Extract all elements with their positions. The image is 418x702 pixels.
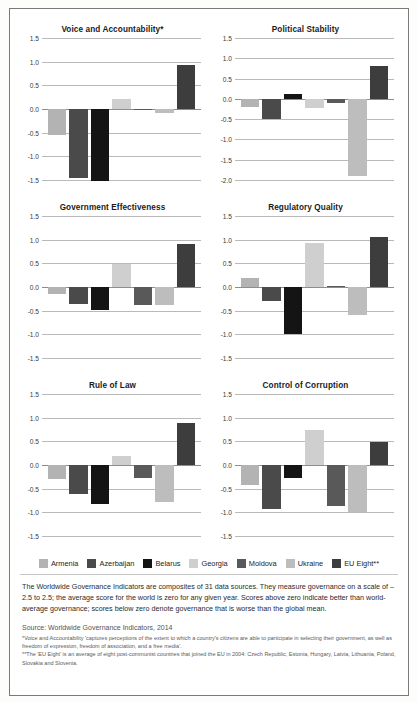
footnote-voice-accountability: *Voice and Accountability 'captures perc… <box>22 634 396 651</box>
bar-slot <box>241 216 259 358</box>
bar-slot <box>177 394 195 536</box>
bar-slot <box>48 216 66 358</box>
bar <box>262 99 280 119</box>
legend-item[interactable]: Georgia <box>189 559 227 568</box>
bar <box>241 99 259 107</box>
bar-series <box>46 38 197 180</box>
plot-area: 1.51.00.50.0-0.5-1.0-1.5 <box>235 394 394 536</box>
y-axis-tick-label: 0.0 <box>223 95 232 102</box>
y-axis-tick-label: -1.0 <box>221 136 232 143</box>
y-axis-tick-label: -1.0 <box>221 509 232 516</box>
y-axis-tick-label: 1.0 <box>223 236 232 243</box>
bar-slot <box>177 38 195 180</box>
bar-slot <box>262 38 280 180</box>
y-axis-tick-label: -1.0 <box>28 331 39 338</box>
legend-label: Ukraine <box>298 559 323 568</box>
bar <box>327 99 345 103</box>
gridline: -1.5 <box>42 358 201 359</box>
y-axis-tick-label: 1.0 <box>223 55 232 62</box>
bar-slot <box>112 216 130 358</box>
y-axis-tick-label: 1.0 <box>30 414 39 421</box>
bar-slot <box>69 216 87 358</box>
bar <box>327 465 345 506</box>
plot-area: 1.51.00.50.0-0.5-1.0-1.5 <box>235 216 394 358</box>
bar <box>348 99 366 176</box>
bar-series <box>239 216 390 358</box>
legend-swatch-icon <box>87 559 96 568</box>
bar <box>348 465 366 512</box>
legend-item[interactable]: Azerbaijan <box>87 559 134 568</box>
y-axis-tick-label: 0.5 <box>223 260 232 267</box>
legend-label: Azerbaijan <box>99 559 134 568</box>
bar <box>69 109 87 178</box>
y-axis-tick-label: -1.0 <box>28 509 39 516</box>
y-axis-tick-label: 0.0 <box>30 106 39 113</box>
y-axis-tick-label: -0.5 <box>28 307 39 314</box>
bar-slot <box>155 216 173 358</box>
bar-slot <box>155 38 173 180</box>
bar <box>327 286 345 287</box>
y-axis-tick-label: 0.0 <box>30 284 39 291</box>
chart-grid: Voice and Accountability*1.51.00.50.0-0.… <box>20 15 398 549</box>
bar-slot <box>284 216 302 358</box>
legend-swatch-icon <box>189 559 198 568</box>
legend-label: EU Eight** <box>344 559 379 568</box>
legend-item[interactable]: Moldova <box>237 559 277 568</box>
bar <box>48 287 66 294</box>
plot-area: 1.51.00.50.0-0.5-1.0-1.5-2.0 <box>235 38 394 180</box>
bar-slot <box>348 38 366 180</box>
bar-slot <box>134 394 152 536</box>
legend-label: Moldova <box>249 559 277 568</box>
bar-slot <box>48 394 66 536</box>
plot-area: 1.51.00.50.0-0.5-1.0-1.5 <box>42 216 201 358</box>
bar-slot <box>69 394 87 536</box>
plot-area: 1.51.00.50.0-0.5-1.0-1.5 <box>42 394 201 536</box>
legend-swatch-icon <box>237 559 246 568</box>
y-axis-tick-label: -0.5 <box>28 485 39 492</box>
bar-slot <box>327 38 345 180</box>
chart-title: Political Stability <box>213 25 398 34</box>
y-axis-tick-label: -1.5 <box>221 355 232 362</box>
bar <box>177 423 195 465</box>
legend-item[interactable]: Belarus <box>143 559 180 568</box>
chart-title: Regulatory Quality <box>213 203 398 212</box>
bar-slot <box>134 38 152 180</box>
bar <box>370 442 388 465</box>
legend-item[interactable]: EU Eight** <box>332 559 379 568</box>
chart-panel: Voice and Accountability*1.51.00.50.0-0.… <box>20 15 205 193</box>
figure-page: Voice and Accountability*1.51.00.50.0-0.… <box>0 0 418 702</box>
bar-slot <box>327 216 345 358</box>
y-axis-tick-label: 1.0 <box>30 236 39 243</box>
y-axis-tick-label: -0.5 <box>28 129 39 136</box>
bar-slot <box>48 38 66 180</box>
bar <box>155 109 173 113</box>
bar-slot <box>91 394 109 536</box>
bar <box>305 243 323 287</box>
chart-title: Government Effectiveness <box>20 203 205 212</box>
bar-slot <box>112 394 130 536</box>
bar-slot <box>305 394 323 536</box>
bar <box>134 465 152 478</box>
legend-label: Armenia <box>51 559 79 568</box>
y-axis-tick-label: -0.5 <box>221 307 232 314</box>
bar-slot <box>305 38 323 180</box>
bar-slot <box>177 216 195 358</box>
y-axis-tick-label: -1.5 <box>28 177 39 184</box>
legend-label: Belarus <box>155 559 180 568</box>
bar <box>177 65 195 109</box>
y-axis-tick-label: 0.5 <box>30 82 39 89</box>
y-axis-tick-label: 1.5 <box>223 213 232 220</box>
y-axis-tick-label: 0.5 <box>30 438 39 445</box>
bar <box>305 99 323 108</box>
bar <box>284 94 302 99</box>
legend-divider <box>20 574 398 575</box>
bar-slot <box>69 38 87 180</box>
legend-item[interactable]: Ukraine <box>286 559 323 568</box>
y-axis-tick-label: 1.5 <box>30 35 39 42</box>
bar <box>91 287 109 310</box>
methodology-note: The Worldwide Governance Indicators are … <box>20 581 398 614</box>
bar <box>262 465 280 509</box>
bar <box>262 287 280 301</box>
legend-item[interactable]: Armenia <box>39 559 79 568</box>
bar <box>134 287 152 305</box>
